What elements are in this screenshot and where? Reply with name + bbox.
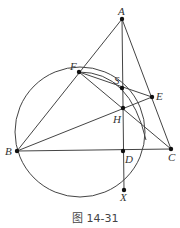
segment-ax — [122, 19, 124, 190]
segment-ab — [17, 19, 122, 151]
geometry-figure: A F S E H B D C X 图 14-31 — [0, 0, 180, 228]
label-x: X — [119, 191, 128, 203]
point-h — [121, 106, 125, 110]
label-h: H — [112, 113, 122, 125]
segment-be — [17, 97, 152, 151]
point-e — [150, 95, 154, 99]
circle-bfx — [15, 67, 145, 197]
point-a — [120, 17, 124, 21]
label-d: D — [124, 153, 133, 165]
label-f: F — [69, 60, 77, 72]
label-s: S — [114, 74, 120, 86]
point-f — [77, 70, 81, 74]
arc-fs — [79, 72, 146, 140]
point-b — [15, 149, 19, 153]
label-a: A — [117, 5, 125, 17]
segment-bc — [17, 149, 171, 151]
point-s — [120, 86, 124, 90]
figure-caption: 图 14-31 — [72, 212, 118, 225]
label-c: C — [168, 151, 176, 163]
label-e: E — [155, 90, 163, 102]
segment-fc — [79, 72, 171, 149]
segment-ac — [122, 19, 171, 149]
label-b: B — [5, 145, 12, 157]
